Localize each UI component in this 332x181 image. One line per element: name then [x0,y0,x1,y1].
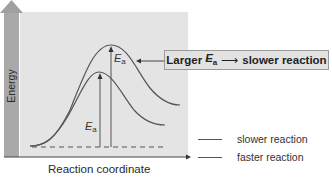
ea-subscript: a [121,57,125,66]
ea-subscript: a [92,125,96,134]
y-axis-arrowhead-icon [0,0,23,13]
legend-label: slower reaction [237,133,308,145]
x-axis-arrowhead-icon [186,155,191,160]
legend-item-slower: slower reaction [198,133,308,145]
legend-label: faster reaction [237,151,304,163]
callout-ea: Ea [205,52,217,67]
ea-symbol: E [205,52,213,64]
callout-suffix: slower reaction [242,54,326,66]
y-axis-label: Energy [5,63,17,109]
plot-panel [20,12,188,157]
legend-line-icon [198,157,222,158]
ea-label-faster: Ea [85,120,97,134]
callout-box: Larger Ea ⟶ slower reaction [164,50,329,70]
legend-line-icon [198,139,222,140]
x-axis-label: Reaction coordinate [48,163,150,175]
energy-diagram: Energy Ea Ea Larger Ea ⟶ slower reaction… [0,0,332,181]
callout-prefix: Larger [166,54,202,66]
right-arrow-icon: ⟶ [221,53,238,67]
ea-label-slower: Ea [114,52,126,66]
ea-subscript: a [213,59,217,68]
legend-item-faster: faster reaction [198,151,304,163]
